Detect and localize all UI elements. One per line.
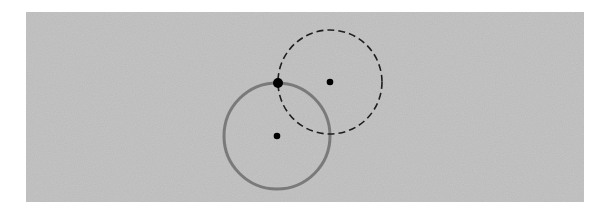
dashed-circle-center-point <box>327 79 334 86</box>
circle-diagram <box>0 0 603 208</box>
intersection-point <box>273 78 283 88</box>
solid-circle-center-point <box>274 133 281 140</box>
texture-overlay <box>26 12 584 202</box>
